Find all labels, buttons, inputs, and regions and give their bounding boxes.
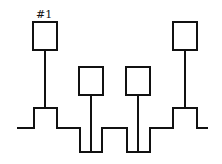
box-1: [33, 22, 57, 50]
box-3: [126, 67, 150, 95]
waveform-diagram: #1: [0, 0, 222, 164]
box-2: [79, 67, 103, 95]
box-group: [33, 22, 197, 152]
box-label-1: #1: [36, 8, 52, 21]
box-4: [173, 22, 197, 50]
step-waveform: [17, 108, 208, 152]
